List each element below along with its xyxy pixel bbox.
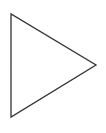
diagram-canvas: [0, 0, 106, 133]
right-triangle-icon: [11, 14, 96, 117]
triangle-diagram: [0, 0, 106, 133]
